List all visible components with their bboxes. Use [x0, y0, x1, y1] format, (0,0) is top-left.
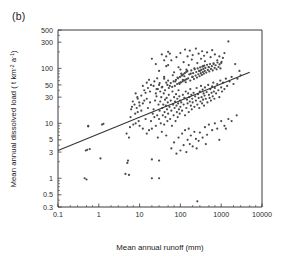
y-tick-label: 300 [41, 38, 53, 47]
regression-line [58, 72, 250, 150]
data-points [84, 40, 242, 202]
x-axis-ticks: 0.1110100100010000 [53, 204, 272, 220]
scatter-plot: 0.30.5135103050100300500 0.1110100100010… [0, 0, 285, 264]
x-tick-label: 1 [97, 210, 101, 219]
y-tick-label: 30 [45, 93, 53, 102]
svg-text:Mean annual dissolved load ( t: Mean annual dissolved load ( t km-2 a-1) [9, 50, 18, 187]
y-tick-label: 3 [49, 148, 53, 157]
x-tick-label: 10000 [252, 210, 272, 219]
y-tick-label: 50 [45, 81, 53, 90]
figure-panel-b: (b) 0.30.5135103050100300500 0.111010010… [0, 0, 285, 264]
x-axis-title: Mean annual runoff (mm) [116, 243, 204, 252]
y-tick-label: 1 [49, 174, 53, 183]
y-tick-label: 10 [45, 119, 53, 128]
x-tick-label: 100 [174, 210, 186, 219]
y-tick-label: 0.3 [43, 203, 53, 212]
x-tick-label: 0.1 [53, 210, 63, 219]
x-tick-label: 10 [136, 210, 144, 219]
panel-label: (b) [12, 10, 25, 22]
y-tick-label: 500 [41, 26, 53, 35]
y-tick-label: 0.5 [43, 190, 53, 199]
y-tick-label: 100 [41, 64, 53, 73]
y-axis-title: Mean annual dissolved load ( t km-2 a-1) [9, 50, 18, 187]
x-tick-label: 1000 [213, 210, 229, 219]
y-tick-label: 5 [49, 135, 53, 144]
